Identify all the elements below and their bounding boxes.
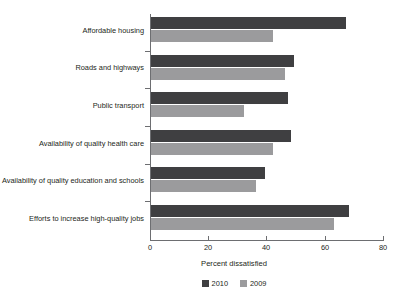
legend-label-2009: 2009 bbox=[250, 279, 266, 288]
bar-2010-affordable-housing bbox=[151, 17, 346, 29]
bar-2009-health-care bbox=[151, 143, 273, 155]
bar-2009-education-and-schools bbox=[151, 180, 256, 192]
bar-2009-roads-and-highways bbox=[151, 68, 285, 80]
bar-chart: Affordable housing Roads and highways Pu… bbox=[0, 0, 402, 297]
category-label-5: Efforts to increase high-quality jobs bbox=[29, 214, 144, 223]
bar-2010-health-care bbox=[151, 130, 291, 142]
category-label-0: Affordable housing bbox=[83, 26, 145, 35]
bar-2009-public-transport bbox=[151, 105, 244, 117]
category-label-4: Availability of quality education and sc… bbox=[2, 176, 144, 185]
legend-swatch-2009 bbox=[240, 280, 247, 287]
x-axis-tick-label-2: 40 bbox=[262, 243, 270, 252]
chart-legend: 2010 2009 bbox=[0, 279, 402, 288]
bar-2009-affordable-housing bbox=[151, 30, 273, 42]
legend-item-2010: 2010 bbox=[202, 279, 228, 288]
x-axis-tick-0 bbox=[150, 236, 151, 241]
x-axis-tick-4 bbox=[383, 236, 384, 241]
x-axis-tick-2 bbox=[266, 236, 267, 241]
x-axis-title-text: Percent dissatisfied bbox=[135, 259, 267, 268]
bar-2010-public-transport bbox=[151, 92, 288, 104]
x-axis-tick-1 bbox=[208, 236, 209, 241]
legend-item-2009: 2009 bbox=[240, 279, 266, 288]
category-label-1: Roads and highways bbox=[75, 63, 144, 72]
bar-group-3 bbox=[150, 127, 383, 165]
x-axis-tick-3 bbox=[325, 236, 326, 241]
bar-2010-roads-and-highways bbox=[151, 55, 294, 67]
x-axis-tick-label-3: 60 bbox=[321, 243, 329, 252]
bar-2009-high-quality-jobs bbox=[151, 218, 334, 230]
category-label-2: Public transport bbox=[93, 101, 144, 110]
category-label-3: Availability of quality health care bbox=[39, 139, 144, 148]
bar-2010-education-and-schools bbox=[151, 167, 265, 179]
legend-label-2010: 2010 bbox=[212, 279, 228, 288]
plot-area bbox=[150, 14, 383, 240]
bar-2010-high-quality-jobs bbox=[151, 205, 349, 217]
bar-group-4 bbox=[150, 164, 383, 202]
x-axis-title: Percent dissatisfied bbox=[0, 259, 402, 268]
x-axis-tick-label-1: 20 bbox=[204, 243, 212, 252]
bar-group-2 bbox=[150, 89, 383, 127]
bar-group-5 bbox=[150, 202, 383, 240]
legend-swatch-2010 bbox=[202, 280, 209, 287]
bar-group-0 bbox=[150, 14, 383, 52]
bar-group-1 bbox=[150, 52, 383, 90]
x-axis-tick-label-4: 80 bbox=[379, 243, 387, 252]
x-axis-tick-label-0: 0 bbox=[148, 243, 152, 252]
